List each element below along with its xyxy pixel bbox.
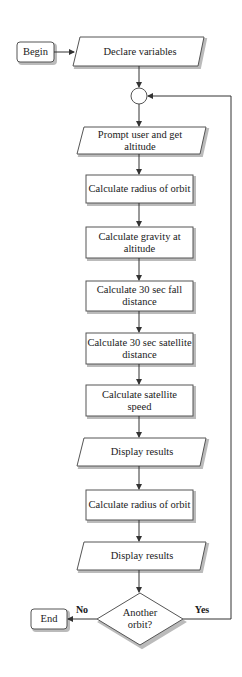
- satdist-label: Calculate 30 sec satellite distance: [86, 333, 193, 364]
- no-label: No: [72, 604, 92, 616]
- radius1-label: Calculate radius of orbit: [88, 175, 191, 203]
- fall-label: Calculate 30 sec fall distance: [92, 281, 187, 311]
- decision-label: Another orbit?: [112, 605, 168, 633]
- display1-label: Display results: [80, 438, 204, 466]
- end-label: End: [31, 609, 67, 629]
- display2-label: Display results: [80, 542, 204, 570]
- radius2-label: Calculate radius of orbit: [88, 490, 191, 520]
- gravity-label: Calculate gravity at altitude: [88, 227, 191, 258]
- declare-label: Declare variables: [78, 37, 202, 66]
- prompt-label: Prompt user and get altitude: [88, 127, 192, 154]
- loop-connector: [131, 88, 147, 104]
- yes-label: Yes: [190, 604, 214, 616]
- begin-label: Begin: [17, 42, 54, 62]
- speed-label: Calculate satellite speed: [90, 385, 189, 416]
